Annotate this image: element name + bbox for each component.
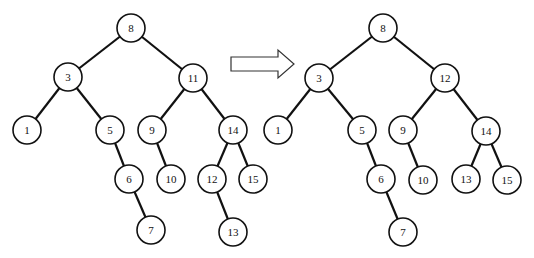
node-label: 7 xyxy=(400,226,406,238)
tree-node: 7 xyxy=(137,216,165,244)
node-label: 14 xyxy=(228,124,240,136)
node-label: 10 xyxy=(166,173,178,185)
tree-node: 12 xyxy=(431,64,459,92)
node-label: 6 xyxy=(378,173,384,185)
tree-node: 8 xyxy=(117,14,145,42)
node-label: 3 xyxy=(316,72,322,84)
tree-node: 13 xyxy=(452,165,480,193)
tree-diagram: 831115914610121571383121591461013157 xyxy=(0,0,534,258)
node-label: 1 xyxy=(24,124,30,136)
tree-node: 6 xyxy=(367,165,395,193)
node-label: 1 xyxy=(275,124,281,136)
tree-node: 5 xyxy=(348,116,376,144)
tree-node: 10 xyxy=(157,165,185,193)
node-label: 3 xyxy=(65,71,71,83)
tree-node: 7 xyxy=(389,218,417,246)
tree-node: 6 xyxy=(115,165,143,193)
tree-node: 1 xyxy=(13,116,41,144)
node-label: 12 xyxy=(440,72,451,84)
node-label: 15 xyxy=(502,174,514,186)
tree-node: 3 xyxy=(305,64,333,92)
tree-node: 15 xyxy=(239,165,267,193)
tree-node: 9 xyxy=(138,116,166,144)
tree-node: 1 xyxy=(264,116,292,144)
tree-node: 11 xyxy=(179,64,207,92)
tree-node: 14 xyxy=(219,116,247,144)
nodes-layer: 831115914610121571383121591461013157 xyxy=(13,14,521,246)
tree-node: 3 xyxy=(54,63,82,91)
tree-node: 5 xyxy=(96,116,124,144)
diagram-canvas: 831115914610121571383121591461013157 xyxy=(0,0,534,258)
tree-before-nodes: 8311159146101215713 xyxy=(13,14,267,246)
node-label: 14 xyxy=(481,125,493,137)
transform-arrow xyxy=(231,50,294,78)
tree-node: 8 xyxy=(369,14,397,42)
tree-node: 15 xyxy=(493,166,521,194)
node-label: 15 xyxy=(248,173,260,185)
node-label: 7 xyxy=(148,224,154,236)
tree-node: 12 xyxy=(198,165,226,193)
node-label: 9 xyxy=(400,124,406,136)
tree-node: 10 xyxy=(409,166,437,194)
node-label: 12 xyxy=(207,173,218,185)
tree-node: 14 xyxy=(472,117,500,145)
node-label: 9 xyxy=(149,124,155,136)
node-label: 13 xyxy=(228,226,240,238)
node-label: 8 xyxy=(380,22,386,34)
tree-node: 9 xyxy=(389,116,417,144)
node-label: 8 xyxy=(128,22,134,34)
node-label: 10 xyxy=(418,174,430,186)
right-arrow-icon xyxy=(231,50,294,78)
node-label: 6 xyxy=(126,173,132,185)
tree-node: 13 xyxy=(219,218,247,246)
tree-after-nodes: 83121591461013157 xyxy=(264,14,521,246)
node-label: 13 xyxy=(461,173,473,185)
node-label: 5 xyxy=(359,124,365,136)
node-label: 5 xyxy=(107,124,113,136)
node-label: 11 xyxy=(188,72,199,84)
